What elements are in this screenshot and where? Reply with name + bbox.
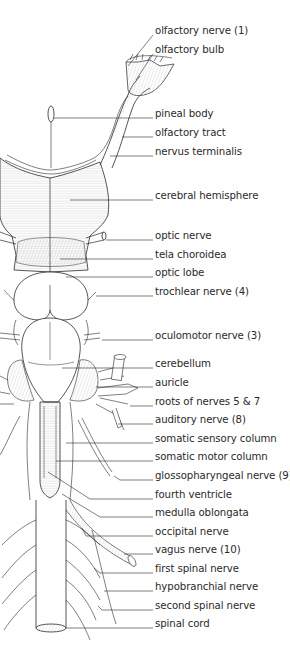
label-roots-of-nerves-5-7: roots of nerves 5 & 7 [155, 396, 260, 408]
label-oculomotor-nerve: oculomotor nerve (3) [155, 330, 261, 342]
label-second-spinal-nerve: second spinal nerve [155, 600, 255, 612]
label-medulla-oblongata: medulla oblongata [155, 507, 249, 519]
label-auricle: auricle [155, 377, 189, 389]
label-olfactory-nerve: olfactory nerve (1) [155, 25, 248, 37]
label-pineal-body: pineal body [155, 108, 213, 120]
brain-anatomy-figure: olfactory nerve (1) olfactory bulb pinea… [0, 0, 290, 665]
label-olfactory-bulb: olfactory bulb [155, 44, 224, 56]
label-trochlear-nerve: trochlear nerve (4) [155, 286, 249, 298]
label-hypobranchial-nerve: hypobranchial nerve [155, 581, 258, 593]
label-spinal-cord: spinal cord [155, 618, 210, 630]
label-occipital-nerve: occipital nerve [155, 526, 229, 538]
label-optic-lobe: optic lobe [155, 267, 204, 279]
label-olfactory-tract: olfactory tract [155, 127, 226, 139]
label-first-spinal-nerve: first spinal nerve [155, 563, 239, 575]
label-glossopharyngeal-nerve: glossopharyngeal nerve (9) [155, 470, 290, 482]
label-somatic-sensory-column: somatic sensory column [155, 433, 277, 445]
label-somatic-motor-column: somatic motor column [155, 451, 268, 463]
label-cerebral-hemisphere: cerebral hemisphere [155, 190, 258, 202]
label-nervus-terminalis: nervus terminalis [155, 146, 242, 158]
label-tela-choroidea: tela choroidea [155, 249, 226, 261]
label-fourth-ventricle: fourth ventricle [155, 489, 232, 501]
label-optic-nerve: optic nerve [155, 230, 211, 242]
label-cerebellum: cerebellum [155, 358, 211, 370]
label-auditory-nerve: auditory nerve (8) [155, 414, 246, 426]
label-vagus-nerve: vagus nerve (10) [155, 544, 241, 556]
